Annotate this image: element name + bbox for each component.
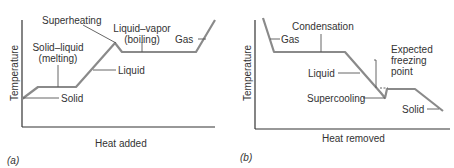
label-liquid-vapor: Liquid–vapor (boiling)	[113, 23, 171, 45]
panel-a-tag: (a)	[7, 155, 19, 166]
label-expected-freezing: Expected freezing point	[391, 44, 433, 77]
label-liquid-vapor-line2: (boiling)	[113, 34, 171, 45]
label-solid-liquid-line1: Solid–liquid	[32, 42, 84, 53]
panel-b-tag: (b)	[240, 152, 252, 163]
label-liquid-a: Liquid	[118, 65, 145, 76]
label-expected-line2: freezing	[391, 55, 433, 66]
panel-a-ylabel: Temperature	[9, 45, 20, 101]
label-solid-liquid-line2: (melting)	[32, 53, 84, 64]
panel-b-xlabel: Heat removed	[322, 133, 385, 144]
label-liquid-b: Liquid	[308, 68, 335, 79]
label-gas-b: Gas	[281, 34, 299, 45]
label-solid-a: Solid	[61, 93, 83, 104]
panel-b-ylabel: Temperature	[242, 45, 253, 101]
label-supercooling: Supercooling	[307, 93, 365, 104]
label-gas-a: Gas	[175, 34, 193, 45]
label-condensation: Condensation	[292, 21, 354, 32]
label-superheating: Superheating	[42, 15, 102, 26]
label-liquid-vapor-line1: Liquid–vapor	[113, 23, 171, 34]
label-expected-line1: Expected	[391, 44, 433, 55]
label-solid-b: Solid	[402, 104, 424, 115]
panel-a-xlabel: Heat added	[95, 138, 147, 149]
label-solid-liquid: Solid–liquid (melting)	[32, 42, 84, 64]
label-expected-line3: point	[391, 66, 433, 77]
